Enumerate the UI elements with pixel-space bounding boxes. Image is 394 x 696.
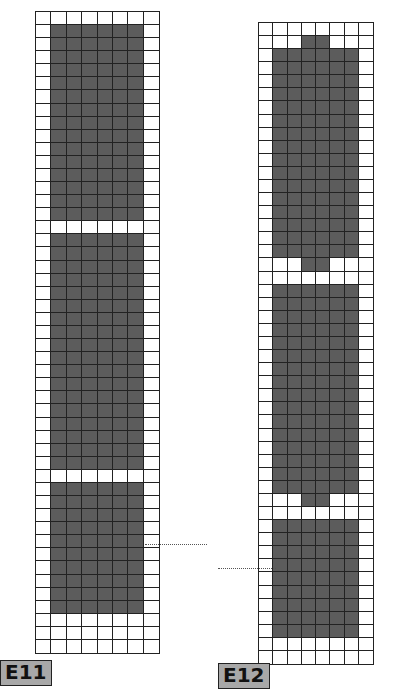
grid-cell	[51, 300, 66, 313]
grid-cell	[259, 298, 273, 311]
grid-cell	[128, 588, 143, 601]
grid-cell	[345, 546, 359, 559]
grid-cell	[36, 208, 51, 221]
grid-cell	[67, 457, 82, 470]
grid-cell	[330, 612, 344, 625]
grid-cell	[345, 206, 359, 219]
grid-cell	[144, 431, 159, 444]
grid-cell	[144, 221, 159, 234]
grid-cell	[36, 143, 51, 156]
grid-cell	[51, 575, 66, 588]
label-e11: E11	[0, 660, 52, 686]
grid-cell	[51, 548, 66, 561]
grid-cell	[259, 350, 273, 363]
grid-cell	[128, 365, 143, 378]
grid-cell	[113, 640, 128, 653]
grid-cell	[345, 651, 359, 664]
grid-cell	[330, 429, 344, 442]
grid-cell	[82, 588, 97, 601]
grid-cell	[128, 234, 143, 247]
grid-cell	[345, 350, 359, 363]
grid-cell	[359, 468, 373, 481]
grid-cell	[36, 195, 51, 208]
grid-cell	[316, 337, 330, 350]
grid-cell	[36, 247, 51, 260]
grid-cell	[128, 378, 143, 391]
grid-cell	[98, 261, 113, 274]
grid-cell	[36, 300, 51, 313]
grid-cell	[302, 520, 316, 533]
grid-cell	[359, 533, 373, 546]
grid-cell	[273, 402, 287, 415]
grid-cell	[67, 117, 82, 130]
grid-cell	[67, 156, 82, 169]
grid-cell	[98, 195, 113, 208]
grid-cell	[128, 352, 143, 365]
grid-cell	[302, 128, 316, 141]
grid-cell	[316, 23, 330, 36]
grid-cell	[288, 559, 302, 572]
grid-cell	[316, 363, 330, 376]
grid-cell	[51, 182, 66, 195]
grid-cell	[113, 64, 128, 77]
grid-cell	[36, 38, 51, 51]
grid-cell	[302, 180, 316, 193]
grid-cell	[345, 559, 359, 572]
grid-cell	[128, 522, 143, 535]
grid-cell	[82, 12, 97, 25]
grid-cell	[36, 313, 51, 326]
grid-cell	[259, 167, 273, 180]
grid-cell	[330, 533, 344, 546]
grid-cell	[345, 586, 359, 599]
grid-cell	[128, 470, 143, 483]
grid-cell	[36, 522, 51, 535]
grid-cell	[345, 638, 359, 651]
grid-cell	[359, 586, 373, 599]
grid-cell	[330, 520, 344, 533]
grid-cell	[144, 561, 159, 574]
grid-cell	[82, 182, 97, 195]
grid-cell	[128, 274, 143, 287]
grid-cell	[144, 391, 159, 404]
grid-cell	[316, 62, 330, 75]
grid-cell	[259, 272, 273, 285]
grid-cell	[302, 559, 316, 572]
grid-cell	[259, 586, 273, 599]
grid-cell	[51, 261, 66, 274]
grid-cell	[302, 245, 316, 258]
grid-cell	[259, 219, 273, 232]
grid-cell	[359, 258, 373, 271]
grid-cell	[288, 206, 302, 219]
grid-cell	[51, 143, 66, 156]
grid-cell	[345, 75, 359, 88]
grid-cell	[82, 378, 97, 391]
grid-cell	[259, 285, 273, 298]
grid-cell	[113, 483, 128, 496]
grid-cell	[51, 287, 66, 300]
grid-cell	[51, 326, 66, 339]
grid-cell	[330, 363, 344, 376]
grid-cell	[144, 130, 159, 143]
grid-cell	[345, 376, 359, 389]
grid-cell	[82, 470, 97, 483]
grid-cell	[345, 481, 359, 494]
grid-cell	[128, 25, 143, 38]
grid-cell	[36, 25, 51, 38]
grid-cell	[98, 234, 113, 247]
grid-cell	[345, 49, 359, 62]
grid-cell	[288, 481, 302, 494]
grid-cell	[259, 258, 273, 271]
grid-cell	[273, 350, 287, 363]
grid-cell	[98, 208, 113, 221]
grid-cell	[330, 494, 344, 507]
grid-cell	[144, 64, 159, 77]
grid-cell	[273, 651, 287, 664]
grid-cell	[67, 535, 82, 548]
grid-cell	[359, 36, 373, 49]
grid-cell	[98, 418, 113, 431]
grid-cell	[345, 311, 359, 324]
grid-cell	[128, 496, 143, 509]
grid-cell	[51, 457, 66, 470]
grid-cell	[82, 38, 97, 51]
grid-cell	[316, 559, 330, 572]
